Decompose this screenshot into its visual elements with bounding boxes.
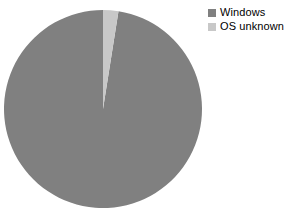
pie-chart: Windows OS unknown <box>0 0 288 212</box>
chart-legend: Windows OS unknown <box>208 6 288 34</box>
pie-slice-windows[interactable] <box>4 10 202 208</box>
pie-slice-group <box>4 10 202 208</box>
legend-swatch-windows <box>208 9 216 17</box>
legend-label-os-unknown: OS unknown <box>220 20 284 33</box>
legend-swatch-os-unknown <box>208 23 216 31</box>
legend-item-windows[interactable]: Windows <box>208 6 288 19</box>
legend-label-windows: Windows <box>220 6 265 19</box>
legend-item-os-unknown[interactable]: OS unknown <box>208 20 288 33</box>
